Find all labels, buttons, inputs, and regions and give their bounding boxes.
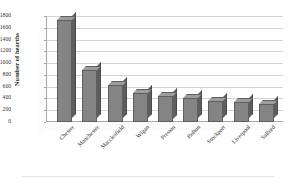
- y-tick-label: 1800: [0, 13, 11, 19]
- bar-front-face: [82, 70, 97, 122]
- bar: [234, 102, 249, 122]
- bar: [259, 104, 274, 122]
- bar-front-face: [133, 93, 148, 122]
- x-axis-tick-labels: ChesterManchesterMacclesfieldWiganPresto…: [46, 124, 296, 174]
- bar: [208, 101, 223, 122]
- bar-front-face: [208, 101, 223, 122]
- bar-front-face: [234, 102, 249, 122]
- bar: [183, 98, 198, 122]
- bar-front-face: [57, 20, 72, 122]
- bar-side-face: [72, 12, 76, 118]
- bar-front-face: [108, 85, 123, 122]
- y-tick-label: 800: [0, 72, 11, 78]
- y-axis-title: Number of hearths: [13, 12, 20, 108]
- y-tick-label: 1000: [0, 60, 11, 66]
- bar-front-face: [259, 104, 274, 122]
- y-tick-label: 1200: [0, 48, 11, 54]
- y-tick-label: 600: [0, 84, 11, 90]
- bar-series: [46, 16, 283, 122]
- bar-chart: Number of hearths 1800160014001200100080…: [0, 0, 296, 185]
- bar-side-face: [97, 62, 101, 118]
- bar: [82, 70, 97, 122]
- y-tick-mark: [44, 122, 46, 123]
- bar-front-face: [158, 96, 173, 123]
- bar: [133, 93, 148, 122]
- y-tick-label: 0: [0, 119, 11, 125]
- y-tick-label: 1400: [0, 37, 11, 43]
- y-tick-label: 400: [0, 95, 11, 101]
- footer-rule: [22, 176, 274, 177]
- plot-side-wall: [38, 24, 46, 138]
- bar: [57, 20, 72, 122]
- bar: [158, 96, 173, 123]
- y-tick-label: 200: [0, 107, 11, 113]
- bar-front-face: [183, 98, 198, 122]
- plot-area: [46, 16, 283, 122]
- bar: [108, 85, 123, 122]
- y-tick-label: 1600: [0, 25, 11, 31]
